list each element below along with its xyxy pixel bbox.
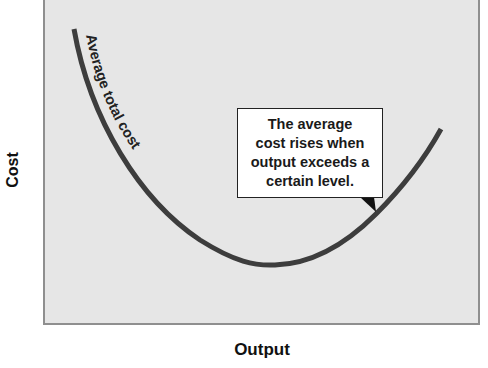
callout-line-4: certain level.: [266, 172, 354, 191]
callout-pointer: [360, 197, 376, 212]
callout-line-3: output exceeds a: [251, 153, 369, 172]
y-axis-label: Cost: [0, 150, 26, 190]
callout-line-2: cost rises when: [256, 134, 365, 153]
y-axis-label-text: Cost: [4, 152, 22, 188]
callout-box: The average cost rises when output excee…: [237, 108, 383, 198]
callout-line-1: The average: [268, 115, 353, 134]
x-axis-label: Output: [0, 340, 488, 360]
